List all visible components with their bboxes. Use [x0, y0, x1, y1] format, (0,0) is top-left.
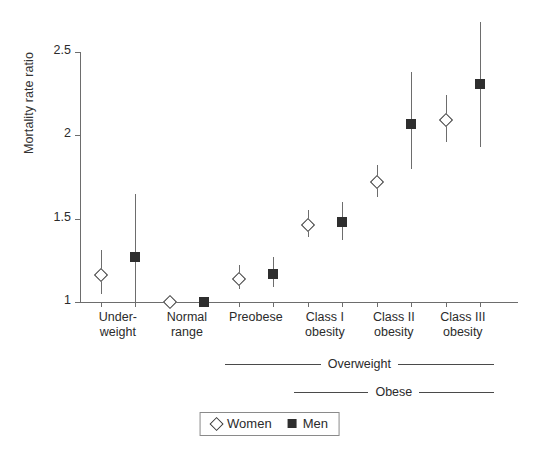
y-tick-label: 2	[64, 126, 71, 140]
data-point-men	[130, 252, 140, 262]
x-tick	[273, 302, 274, 307]
data-point-women	[94, 268, 108, 282]
x-tick	[239, 302, 240, 307]
y-axis-line	[80, 52, 81, 302]
x-tick	[446, 302, 447, 307]
filled-square-icon	[288, 419, 297, 428]
data-point-men	[337, 217, 347, 227]
x-tick	[377, 302, 378, 307]
y-axis-label: Mortality rate ratio	[22, 4, 36, 154]
plot-area: 11.522.5	[80, 22, 518, 302]
data-point-men	[475, 79, 485, 89]
chart-figure: Mortality rate ratio 11.522.5 Under- wei…	[0, 0, 539, 462]
x-category-label: Normal range	[167, 310, 207, 340]
x-tick	[308, 302, 309, 307]
bracket-line-right	[398, 364, 494, 365]
data-point-men	[268, 269, 278, 279]
x-tick	[411, 302, 412, 307]
x-tick	[135, 302, 136, 307]
annotation-bracket: Overweight	[225, 357, 494, 371]
y-tick: 1.5	[75, 219, 80, 220]
legend-label-men: Men	[303, 416, 328, 431]
data-point-women	[439, 113, 453, 127]
legend-item-men: Men	[288, 416, 328, 431]
data-point-women	[370, 175, 384, 189]
y-tick: 2	[75, 135, 80, 136]
bracket-label: Overweight	[321, 357, 398, 371]
bracket-line-right	[419, 392, 494, 393]
y-tick-label: 2.5	[54, 43, 71, 57]
x-tick	[480, 302, 481, 307]
y-tick-label: 1	[64, 293, 71, 307]
data-point-men	[199, 297, 209, 307]
y-tick-label: 1.5	[54, 210, 71, 224]
x-category-label: Under- weight	[99, 310, 137, 340]
x-category-label: Class III obesity	[440, 310, 485, 340]
chart-legend: Women Men	[199, 412, 340, 436]
y-tick: 2.5	[75, 52, 80, 53]
data-point-women	[232, 272, 246, 286]
annotation-bracket: Obese	[294, 385, 494, 399]
x-axis-line	[80, 302, 518, 303]
data-point-women	[163, 295, 177, 309]
x-category-label: Preobese	[229, 310, 283, 325]
bracket-line-left	[294, 392, 369, 393]
data-point-men	[406, 119, 416, 129]
data-point-women	[301, 218, 315, 232]
x-tick	[101, 302, 102, 307]
bracket-line-left	[225, 364, 321, 365]
x-tick	[342, 302, 343, 307]
x-category-label: Class I obesity	[305, 310, 345, 340]
bracket-label: Obese	[368, 385, 419, 399]
open-diamond-icon	[209, 416, 223, 430]
legend-label-women: Women	[227, 416, 272, 431]
legend-item-women: Women	[211, 416, 272, 431]
error-bar	[135, 194, 136, 302]
x-category-label: Class II obesity	[373, 310, 415, 340]
y-tick: 1	[75, 302, 80, 303]
